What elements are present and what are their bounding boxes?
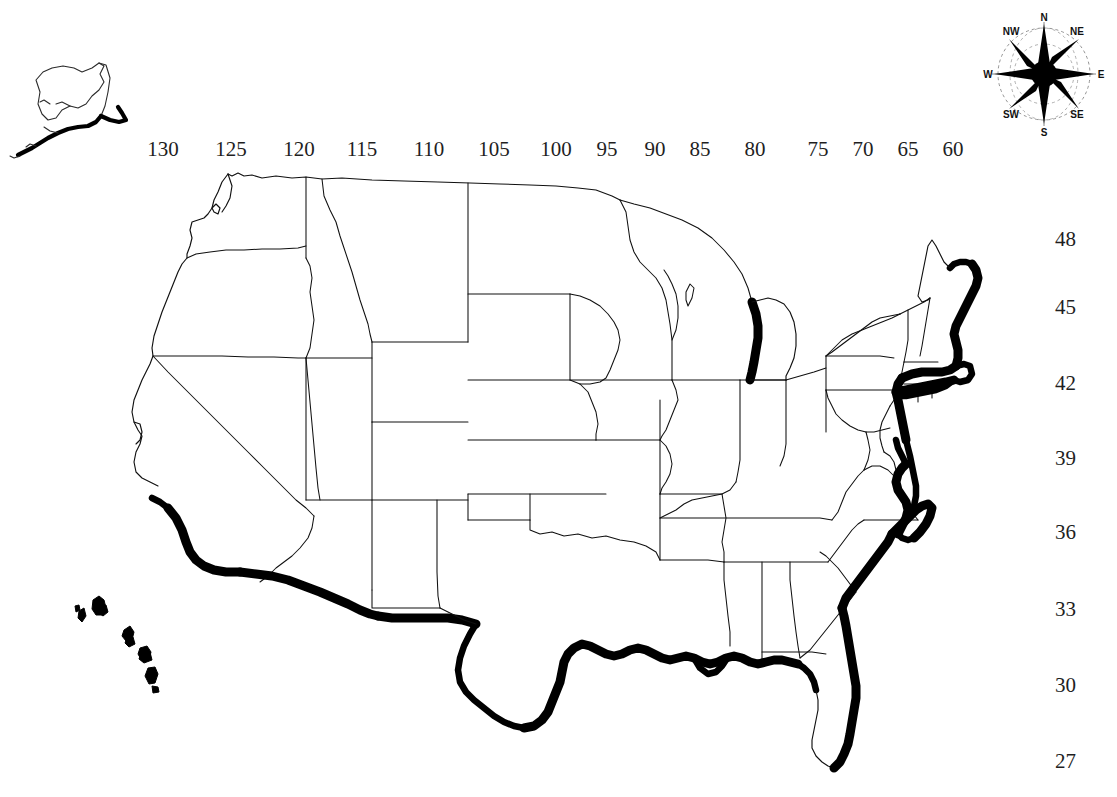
- latitude-label: 33: [1055, 597, 1076, 621]
- longitude-label: 125: [208, 134, 254, 164]
- hawaii-inset: [75, 596, 159, 693]
- compass-label-n: N: [1040, 12, 1047, 23]
- map-page: 130 125 120 115 110 105 100 95 90 85 80 …: [0, 0, 1117, 797]
- latitude-label: 30: [1055, 673, 1076, 697]
- latitude-label: 39: [1055, 446, 1076, 470]
- compass-label-ne: NE: [1070, 26, 1084, 37]
- longitude-label: 80: [737, 134, 773, 164]
- longitude-label: 115: [339, 134, 385, 164]
- longitude-label: 75: [800, 134, 836, 164]
- longitude-label: 120: [276, 134, 322, 164]
- compass-label-se: SE: [1070, 109, 1084, 120]
- compass-label-nw: NW: [1003, 26, 1020, 37]
- compass-label-w: W: [983, 69, 993, 80]
- longitude-label-row: 130 125 120 115 110 105 100 95 90 85 80 …: [0, 134, 1117, 164]
- longitude-label: 65: [890, 134, 926, 164]
- longitude-label: 105: [471, 134, 517, 164]
- longitude-label: 85: [682, 134, 718, 164]
- compass-label-sw: SW: [1003, 109, 1020, 120]
- longitude-label: 60: [935, 134, 971, 164]
- longitude-label: 100: [533, 134, 579, 164]
- us-map-canvas: [0, 0, 1117, 797]
- longitude-label: 130: [140, 134, 186, 164]
- longitude-label: 110: [406, 134, 452, 164]
- latitude-label: 48: [1055, 227, 1076, 251]
- latitude-label: 27: [1055, 749, 1076, 773]
- compass-label-s: S: [1041, 127, 1048, 138]
- highlighted-coastline: [152, 240, 978, 768]
- state-borders: [153, 173, 944, 666]
- latitude-label: 36: [1055, 520, 1076, 544]
- compass-rose: N NE E SE S SW W NW: [978, 8, 1110, 140]
- longitude-label: 70: [845, 134, 881, 164]
- longitude-label: 90: [637, 134, 673, 164]
- compass-label-e: E: [1098, 69, 1105, 80]
- latitude-label: 42: [1055, 371, 1076, 395]
- latitude-label: 45: [1055, 295, 1076, 319]
- thin-coast-and-border: [132, 174, 232, 486]
- longitude-label: 95: [589, 134, 625, 164]
